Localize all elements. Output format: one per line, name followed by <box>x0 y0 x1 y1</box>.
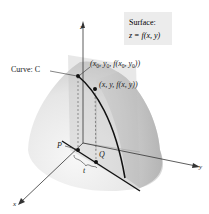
point-q-dot <box>94 160 98 164</box>
point-p-dot <box>76 148 80 152</box>
curve-c-label: Curve: C <box>11 66 40 74</box>
surface-curve-diagram: Surface: z = f(x, y) Curve: C z y x (x0,… <box>0 0 209 214</box>
general-point-dot <box>93 87 97 91</box>
y-axis-label: y <box>199 164 202 171</box>
point-p-label: P <box>57 142 62 150</box>
x-axis-label: x <box>13 201 16 208</box>
start-point-dot <box>76 74 80 78</box>
general-point-label: (x, y, f(x, y)) <box>99 81 138 89</box>
parameter-t-label: t <box>83 167 85 175</box>
point-q-label: Q <box>99 151 105 159</box>
surface-label-title: Surface: <box>129 18 156 27</box>
z-axis-label: z <box>80 24 83 31</box>
diagram-canvas <box>0 0 209 214</box>
surface-label-box: Surface: z = f(x, y) <box>124 12 172 45</box>
surface-label-equation: z = f(x, y) <box>129 31 160 40</box>
start-point-label: (x0, y0, f(x0, y0)) <box>90 60 140 69</box>
